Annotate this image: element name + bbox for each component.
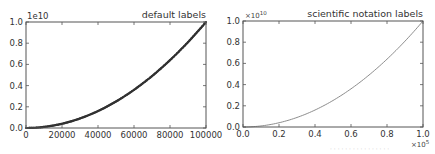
data-marker — [131, 90, 133, 92]
y-tick-label: 0.8 — [9, 38, 23, 48]
data-marker — [183, 45, 185, 47]
chart-default-labels: 0200004000060000800001000000.00.20.40.60… — [9, 9, 222, 140]
x-tick-label: 80000 — [156, 130, 183, 140]
data-marker — [124, 95, 126, 97]
x-tick-label: 40000 — [84, 130, 111, 140]
data-marker — [156, 70, 158, 72]
data-marker — [187, 41, 189, 43]
data-marker — [182, 47, 184, 49]
x-tick-label: 0.2 — [272, 129, 286, 139]
data-marker — [153, 73, 155, 75]
data-marker — [149, 76, 151, 78]
y-tick-label: 0.4 — [9, 81, 23, 91]
data-marker — [203, 23, 205, 25]
data-marker — [144, 81, 146, 83]
data-marker — [165, 62, 167, 64]
y-tick-label: 1.0 — [226, 16, 240, 26]
data-marker — [200, 27, 202, 29]
y-offset-label: 1e10 — [27, 11, 48, 21]
data-marker — [138, 85, 140, 87]
y-tick-label: 0.4 — [226, 80, 240, 90]
y-tick-label: 0.8 — [226, 37, 240, 47]
y-tick-label: 1.0 — [9, 17, 23, 27]
x-tick-label: 0.8 — [380, 129, 394, 139]
x-offset-label: ×105 — [411, 139, 430, 149]
data-marker — [185, 43, 187, 45]
data-marker — [171, 57, 173, 59]
x-tick-label: 0 — [23, 130, 28, 140]
data-marker — [151, 75, 153, 77]
data-marker — [169, 59, 171, 61]
data-marker — [173, 56, 175, 58]
figure: 0200004000060000800001000000.00.20.40.60… — [0, 0, 435, 154]
data-marker — [164, 64, 166, 66]
plot-frame — [26, 22, 206, 128]
x-tick-label: 0.6 — [344, 129, 358, 139]
data-line — [243, 21, 423, 127]
x-tick-label: 100000 — [190, 130, 222, 140]
x-tick-label: 1.0 — [416, 129, 430, 139]
data-marker — [191, 37, 193, 39]
x-tick-label: 20000 — [48, 130, 75, 140]
x-tick-label: 60000 — [120, 130, 147, 140]
data-marker — [140, 83, 142, 85]
y-tick-label: 0.6 — [9, 59, 23, 69]
data-marker — [178, 50, 180, 52]
data-marker — [147, 78, 149, 80]
data-marker — [180, 49, 182, 51]
data-marker — [128, 92, 130, 94]
y-tick-label: 0.0 — [9, 123, 23, 133]
data-marker — [135, 87, 137, 89]
data-marker — [162, 66, 164, 68]
y-tick-label: 0.6 — [226, 58, 240, 68]
watermark: · · · · · · · · · · · · · · · · — [330, 145, 389, 152]
data-marker — [174, 54, 176, 56]
y-offset-label: ×1010 — [245, 10, 267, 20]
y-tick-label: 0.2 — [9, 102, 23, 112]
data-marker — [167, 61, 169, 63]
data-marker — [198, 29, 200, 31]
data-marker — [196, 31, 198, 33]
data-marker — [201, 25, 203, 27]
data-marker — [192, 35, 194, 37]
data-marker — [160, 67, 162, 69]
chart-scientific-notation-labels: 0.00.20.40.60.81.00.00.20.40.60.81.0scie… — [226, 8, 429, 149]
data-marker — [137, 86, 139, 88]
y-tick-label: 0.0 — [226, 122, 240, 132]
plot-frame — [243, 21, 423, 127]
data-marker — [129, 91, 131, 93]
data-marker — [133, 89, 135, 91]
data-marker — [142, 82, 144, 84]
chart-title: scientific notation labels — [307, 8, 423, 19]
data-marker — [155, 72, 157, 74]
data-line — [26, 22, 206, 128]
y-tick-label: 0.2 — [226, 101, 240, 111]
data-marker — [176, 52, 178, 54]
data-marker — [146, 79, 148, 81]
data-marker — [189, 39, 191, 41]
data-marker — [126, 94, 128, 96]
data-marker — [158, 69, 160, 71]
chart-title: default labels — [142, 9, 206, 20]
x-tick-label: 0.4 — [308, 129, 322, 139]
data-marker — [194, 33, 196, 35]
